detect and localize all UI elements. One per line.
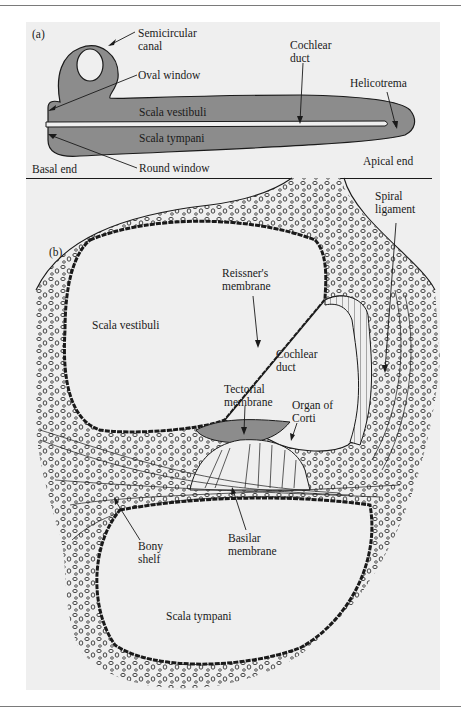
label-organ-of-corti: Organ of Corti	[292, 399, 333, 425]
cochlea-cross-section-drawing	[26, 174, 440, 690]
label-spiral-ligament: Spiral ligament	[375, 190, 415, 216]
panel-b-cochlea-cross-section: (b) Spiral ligament Reissner's membrane …	[26, 174, 440, 690]
label-apical-end: Apical end	[363, 155, 413, 168]
cochlea-uncoiled-drawing	[26, 22, 440, 174]
panel-b-tag: (b)	[49, 246, 62, 259]
bottom-rule	[0, 706, 461, 707]
label-semicircular-canal: Semicircular canal	[138, 27, 197, 53]
label-cochlear-duct-b: Cochlear duct	[276, 348, 318, 374]
label-scala-tympani-a: Scala tympani	[139, 132, 204, 145]
scala-tympani-b	[97, 498, 372, 664]
top-rule	[0, 5, 461, 6]
label-scala-vestibuli-b: Scala vestibuli	[92, 319, 159, 332]
label-reissners-membrane: Reissner's membrane	[222, 267, 271, 293]
panel-a-tag: (a)	[32, 28, 45, 41]
label-helicotrema: Helicotrema	[350, 77, 407, 90]
label-tectorial-membrane: Tectorial membrane	[224, 383, 273, 409]
label-oval-window: Oval window	[138, 69, 200, 82]
label-cochlear-duct-a: Cochlear duct	[290, 39, 332, 65]
label-scala-tympani-b: Scala tympani	[166, 610, 231, 623]
label-bony-shelf: Bony shelf	[138, 540, 163, 566]
label-basilar-membrane: Basilar membrane	[228, 532, 277, 558]
panel-a-cochlea-uncoiled: (a) Semicircular canal Cochlear duct Ova…	[26, 22, 440, 174]
label-scala-vestibuli-a: Scala vestibuli	[139, 106, 206, 119]
